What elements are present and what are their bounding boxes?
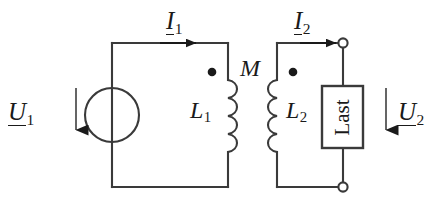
label-load-voltage-base: U bbox=[398, 98, 416, 126]
inductor-secondary-coil bbox=[268, 80, 277, 152]
circuit-schematic-canvas bbox=[0, 0, 445, 202]
terminal-top-right bbox=[338, 38, 347, 47]
load-box bbox=[322, 86, 363, 148]
label-primary-current-sub: 1 bbox=[175, 20, 183, 37]
coupling-dot-primary-icon bbox=[208, 68, 217, 77]
label-secondary-inductance: L2 bbox=[286, 98, 307, 125]
circuit-diagram-figure: U1 U2 I1 I2 L1 L2 M Last bbox=[0, 0, 445, 202]
label-secondary-current-base: I bbox=[294, 7, 302, 35]
label-load-voltage: U2 bbox=[398, 99, 424, 127]
label-mutual-inductance-base: M bbox=[240, 55, 260, 81]
label-source-voltage: U1 bbox=[8, 99, 34, 127]
label-secondary-inductance-base: L bbox=[286, 97, 299, 123]
label-primary-inductance: L1 bbox=[190, 98, 211, 125]
label-secondary-inductance-sub: 2 bbox=[300, 109, 307, 125]
label-secondary-current-sub: 2 bbox=[303, 20, 311, 37]
label-source-voltage-base: U bbox=[8, 98, 26, 126]
label-source-voltage-sub: 1 bbox=[27, 111, 35, 128]
inductor-primary-coil bbox=[228, 80, 237, 152]
label-primary-inductance-sub: 1 bbox=[204, 109, 211, 125]
label-primary-inductance-base: L bbox=[190, 97, 203, 123]
label-load-voltage-sub: 2 bbox=[417, 111, 425, 128]
terminal-bottom-right bbox=[338, 182, 347, 191]
label-primary-current: I1 bbox=[166, 8, 183, 36]
label-mutual-inductance: M bbox=[240, 56, 261, 83]
coupling-dot-secondary-icon bbox=[289, 68, 298, 77]
label-primary-current-base: I bbox=[166, 7, 174, 35]
label-secondary-current: I2 bbox=[294, 8, 311, 36]
